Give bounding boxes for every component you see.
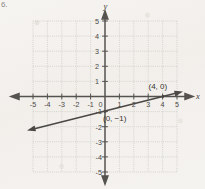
y-axis-arrow-down	[102, 176, 108, 184]
y-tick-label: -2	[96, 123, 102, 132]
x-axis-label: x	[195, 91, 200, 101]
x-tick-label: -1	[87, 100, 93, 109]
x-tick-label: 5	[175, 100, 179, 109]
point-marker-4-0	[162, 95, 165, 98]
x-tick-label: -3	[59, 100, 65, 109]
point-label-0-neg1: (0, −1)	[103, 114, 127, 123]
x-tick-label: 4	[161, 100, 165, 109]
y-tick-label: 3	[95, 47, 99, 56]
x-tick-label: -5	[30, 100, 36, 109]
axes	[11, 11, 193, 184]
worksheet-graph-figure: 6.	[0, 0, 205, 189]
x-tick-label: 3	[146, 100, 150, 109]
point-label-4-0: (4, 0)	[149, 82, 168, 91]
y-axis-label: y	[103, 1, 108, 11]
x-axis-arrow-right	[185, 94, 193, 100]
y-tick-label: 4	[95, 32, 99, 41]
y-tick-label: -4	[96, 153, 102, 162]
x-tick-label: -4	[44, 100, 50, 109]
y-tick-label: 2	[95, 62, 99, 71]
y-tick-label: 5	[95, 17, 99, 26]
y-axis-arrow-up	[102, 11, 108, 19]
coordinate-plane: -5 -4 -3 -2 -1 0 1 2 3 4 5 5 4 3 2 1 -1 …	[0, 0, 205, 189]
y-tick-label: -3	[96, 138, 102, 147]
y-tick-label: -5	[96, 168, 102, 177]
y-tick-label: 1	[95, 77, 99, 86]
x-axis-arrow-left	[11, 94, 19, 100]
x-tick-label: -2	[73, 100, 79, 109]
